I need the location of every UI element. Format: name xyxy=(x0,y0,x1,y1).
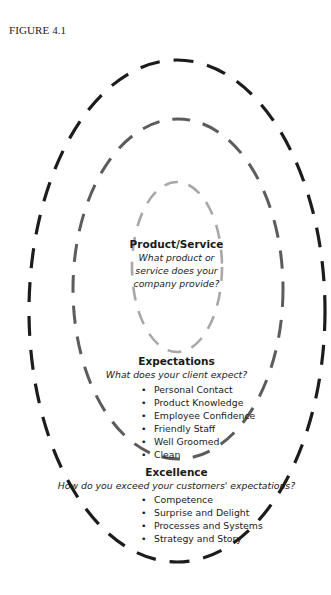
expectations-question: What does your client expect? xyxy=(11,368,331,381)
list-item: Friendly Staff xyxy=(141,422,255,435)
list-item: Surprise and Delight xyxy=(141,506,263,519)
list-item: Processes and Systems xyxy=(141,519,263,532)
list-item: Clean xyxy=(141,448,255,461)
list-item: Competence xyxy=(141,493,263,506)
product-service-question-line-2: service does your xyxy=(11,264,331,277)
list-item: Personal Contact xyxy=(141,383,255,396)
expectations-section: Expectations What does your client expec… xyxy=(11,355,331,381)
list-item: Well Groomed xyxy=(141,435,255,448)
expectations-title: Expectations xyxy=(11,355,331,368)
product-service-title: Product/Service xyxy=(11,238,331,251)
excellence-title: Excellence xyxy=(11,466,331,479)
list-item: Product Knowledge xyxy=(141,396,255,409)
product-service-question-line-1: What product or xyxy=(11,251,331,264)
excellence-list: Competence Surprise and Delight Processe… xyxy=(141,493,263,545)
expectations-list: Personal Contact Product Knowledge Emplo… xyxy=(141,383,255,461)
excellence-question: How do you exceed your customers' expect… xyxy=(11,479,331,492)
list-item: Strategy and Story xyxy=(141,532,263,545)
excellence-section: Excellence How do you exceed your custom… xyxy=(11,466,331,492)
product-service-section: Product/Service What product or service … xyxy=(11,238,331,290)
list-item: Employee Confidence xyxy=(141,409,255,422)
product-service-question-line-3: company provide? xyxy=(11,277,331,290)
